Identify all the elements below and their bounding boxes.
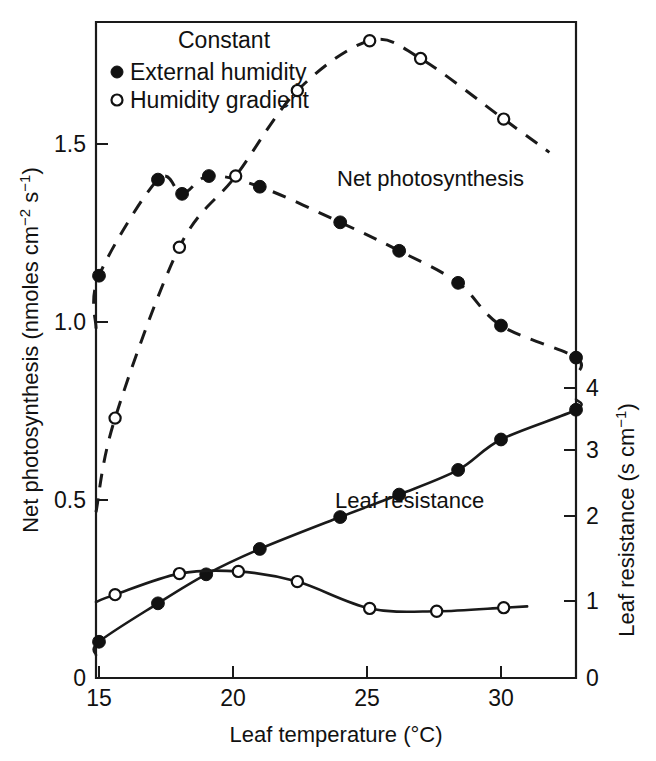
legend-label-external-humidity: External humidity <box>130 59 307 85</box>
y-right-tick-label-2: 2 <box>586 503 599 529</box>
data-point <box>498 113 509 124</box>
legend-marker-filled-circle-icon <box>111 66 123 78</box>
data-point <box>292 85 303 96</box>
figure-container: 0 0.5 1.0 1.5 0 1 2 3 4 15 20 25 <box>0 0 656 761</box>
x-ticks: 15 20 25 30 <box>86 666 514 711</box>
y-left-axis-title: Net photosynthesis (nmoles cm−2 s−1) <box>16 167 43 533</box>
data-point <box>152 173 165 186</box>
y-left-tick-label-2: 1.0 <box>54 309 86 335</box>
y-right-axis-title: Leaf resistance (s cm−1) <box>612 403 639 637</box>
data-point <box>415 53 426 64</box>
data-point <box>253 543 266 556</box>
y-right-tick-label-4: 4 <box>586 375 599 401</box>
y-left-title-tail: ) <box>18 167 43 174</box>
data-point <box>202 170 215 183</box>
y-left-title-sup2: −1 <box>16 175 33 192</box>
data-point <box>364 603 375 614</box>
data-point <box>152 597 165 610</box>
data-point <box>109 589 120 600</box>
legend-title: Constant <box>178 27 271 53</box>
net-photosynthesis-label: Net photosynthesis <box>337 166 524 191</box>
data-point <box>230 170 241 181</box>
y-right-ticks: 0 1 2 3 4 <box>564 375 599 691</box>
y-left-title-main: Net photosynthesis (nmoles cm <box>18 226 43 533</box>
x-tick-label-3: 30 <box>488 685 514 711</box>
y-left-title-mid: s <box>18 192 43 209</box>
data-point <box>495 433 508 446</box>
data-point <box>292 576 303 587</box>
y-right-title-main: Leaf resistance (s cm <box>614 428 639 637</box>
x-tick-label-0: 15 <box>86 685 112 711</box>
y-left-title-sup1: −2 <box>16 209 33 226</box>
x-tick-label-1: 20 <box>220 685 246 711</box>
y-left-ticks: 0 0.5 1.0 1.5 <box>54 131 108 691</box>
series-0 <box>93 170 583 376</box>
data-point <box>93 635 106 648</box>
data-point <box>393 488 406 501</box>
data-point <box>393 244 406 257</box>
chart-canvas: 0 0.5 1.0 1.5 0 1 2 3 4 15 20 25 <box>0 0 656 761</box>
y-right-tick-label-3: 3 <box>586 437 599 463</box>
data-point <box>452 464 465 477</box>
data-point <box>570 351 583 364</box>
y-left-tick-label-0: 0 <box>73 665 86 691</box>
data-point <box>253 180 266 193</box>
data-point <box>364 35 375 46</box>
data-point <box>109 413 120 424</box>
y-left-tick-label-1: 0.5 <box>54 487 86 513</box>
data-point <box>233 566 244 577</box>
y-right-title-sup1: −1 <box>612 411 629 428</box>
series-2 <box>93 399 583 655</box>
x-axis-title: Leaf temperature (°C) <box>230 722 443 747</box>
data-point <box>174 242 185 253</box>
svg-text:Net photosynthesis (nmoles cm−: Net photosynthesis (nmoles cm−2 s−1) <box>16 167 43 533</box>
y-right-tick-label-0: 0 <box>586 665 599 691</box>
data-point <box>495 319 508 332</box>
data-point <box>176 187 189 200</box>
y-right-tick-label-1: 1 <box>586 588 599 614</box>
y-left-tick-label-3: 1.5 <box>54 131 86 157</box>
data-series-layer <box>93 35 583 655</box>
series-line-2 <box>94 399 582 655</box>
data-point <box>174 568 185 579</box>
data-point <box>93 269 106 282</box>
legend: Constant External humidity Humidity grad… <box>111 27 310 113</box>
data-point <box>452 276 465 289</box>
data-point <box>334 511 347 524</box>
series-line-0 <box>94 176 582 375</box>
legend-marker-open-circle-icon <box>112 95 123 106</box>
data-point <box>498 602 509 613</box>
data-point <box>570 403 583 416</box>
data-point <box>431 606 442 617</box>
data-point <box>334 216 347 229</box>
svg-text:Leaf resistance (s cm−1): Leaf resistance (s cm−1) <box>612 403 639 637</box>
x-tick-label-2: 25 <box>354 685 380 711</box>
y-right-title-tail: ) <box>614 403 639 410</box>
